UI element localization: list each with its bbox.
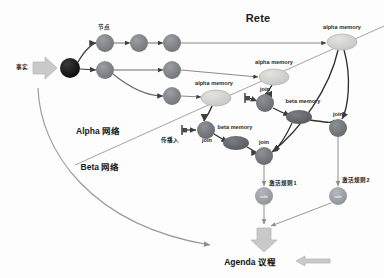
node-alpha-4[interactable] (96, 61, 114, 79)
node-label-jiedian: 节点 (98, 25, 110, 31)
join-label-a: join (260, 87, 270, 93)
activate-rule-2-label: 激活规则2 (342, 178, 369, 184)
beta-network-label: Beta 网络 (81, 163, 120, 172)
node-root[interactable] (60, 58, 80, 78)
node-alpha-3[interactable] (163, 34, 181, 52)
join-label-d: join (333, 112, 343, 118)
alpha-memory-label-mid: alpha memory (255, 60, 293, 66)
node-join-c[interactable] (255, 147, 273, 165)
node-join-d[interactable] (329, 119, 347, 137)
node-alpha-memory-mid[interactable] (259, 69, 289, 85)
facts-input-label: 事实 (16, 65, 28, 71)
propagate-in-label: 传播入 (161, 138, 179, 144)
join-label-c: join (259, 140, 269, 146)
alpha-network-label: Alpha 网络 (76, 127, 120, 136)
node-beta-memory-a[interactable] (286, 110, 312, 124)
node-alpha-1[interactable] (96, 34, 114, 52)
rete-diagram: Rete 事实 节点 alpha memory alpha memory alp… (0, 0, 384, 278)
alpha-memory-label-low: alpha memory (195, 81, 233, 87)
node-beta-memory-b[interactable] (223, 136, 249, 150)
node-alpha-5[interactable] (163, 61, 181, 79)
rule-node-label-1: rule (260, 194, 267, 199)
rule-node-label-2: rule (334, 194, 341, 199)
beta-memory-label-a: beta memory (286, 99, 321, 105)
agenda-label: Agenda 议程 (224, 258, 276, 267)
join-label-b: join (202, 138, 212, 144)
alpha-memory-label-top: alpha memory (323, 25, 361, 31)
diagram-title: Rete (246, 13, 271, 24)
node-alpha-memory-top[interactable] (327, 34, 357, 50)
node-alpha-memory-low[interactable] (201, 90, 231, 106)
node-join-a[interactable] (256, 94, 274, 112)
activate-rule-1-label: 激活规则1 (269, 181, 296, 187)
node-alpha-2[interactable] (130, 34, 148, 52)
beta-memory-label-b: beta memory (218, 125, 253, 131)
node-alpha-6[interactable] (163, 87, 181, 105)
diagram-nodes-layer (0, 0, 384, 278)
